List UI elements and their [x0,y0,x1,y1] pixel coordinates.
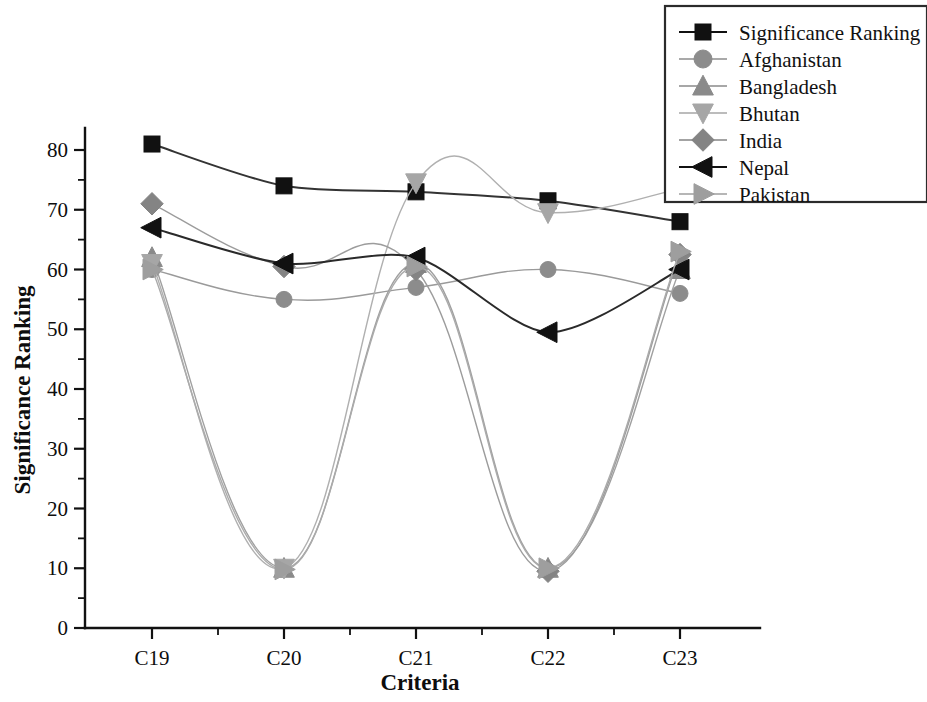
legend-label: Bangladesh [739,75,837,99]
data-point-circle [276,291,292,307]
data-point-square [276,178,292,194]
legend-label: Nepal [739,156,789,180]
data-point-diamond [141,193,164,216]
legend-label: Afghanistan [739,48,842,72]
x-tick-label: C21 [398,646,433,670]
data-point-square [144,136,160,152]
series-layer [141,136,692,582]
series-line [152,258,680,569]
y-tick-label: 70 [47,198,68,222]
x-tick-label: C19 [134,646,169,670]
series-line [152,156,680,569]
chart-canvas: 01020304050607080C19C20C21C22C23 Signifi… [0,0,927,702]
data-point-triangle-left [141,217,161,238]
legend-label: Bhutan [739,102,800,126]
data-point-square [672,214,688,230]
series-bhutan [142,156,691,579]
y-tick-label: 60 [47,258,68,282]
data-point-triangle-left [537,322,557,343]
data-point-circle [408,279,424,295]
line-chart: 01020304050607080C19C20C21C22C23 Signifi… [0,0,927,702]
data-point-circle [672,285,688,301]
legend-label: India [739,129,783,153]
legend-label: Significance Ranking [739,21,921,45]
x-tick-label: C22 [530,646,565,670]
x-axis-title: Criteria [380,670,460,695]
legend-item-pakistan[interactable]: Pakistan [679,183,811,207]
series-line [152,252,680,570]
data-point-circle [694,50,712,68]
data-point-square [695,24,711,40]
data-point-circle [540,262,556,278]
legend-item-afghanistan[interactable]: Afghanistan [679,48,842,72]
legend-item-bangladesh[interactable]: Bangladesh [679,75,837,99]
y-axis-title: Significance Ranking [10,285,35,494]
y-tick-label: 40 [47,377,68,401]
y-tick-label: 50 [47,317,68,341]
x-tick-label: C20 [266,646,301,670]
y-tick-label: 20 [47,497,68,521]
series-bangladesh [142,247,691,578]
x-tick-label: C23 [662,646,697,670]
legend-label: Pakistan [739,183,811,207]
y-tick-label: 0 [58,616,69,640]
series-india [141,193,692,583]
y-tick-label: 30 [47,437,68,461]
data-point-triangle-down [538,204,559,224]
y-tick-label: 80 [47,138,68,162]
axis-titles: Significance RankingCriteria [10,285,460,695]
legend: Significance RankingAfghanistanBanglades… [665,6,927,207]
y-tick-label: 10 [47,556,68,580]
